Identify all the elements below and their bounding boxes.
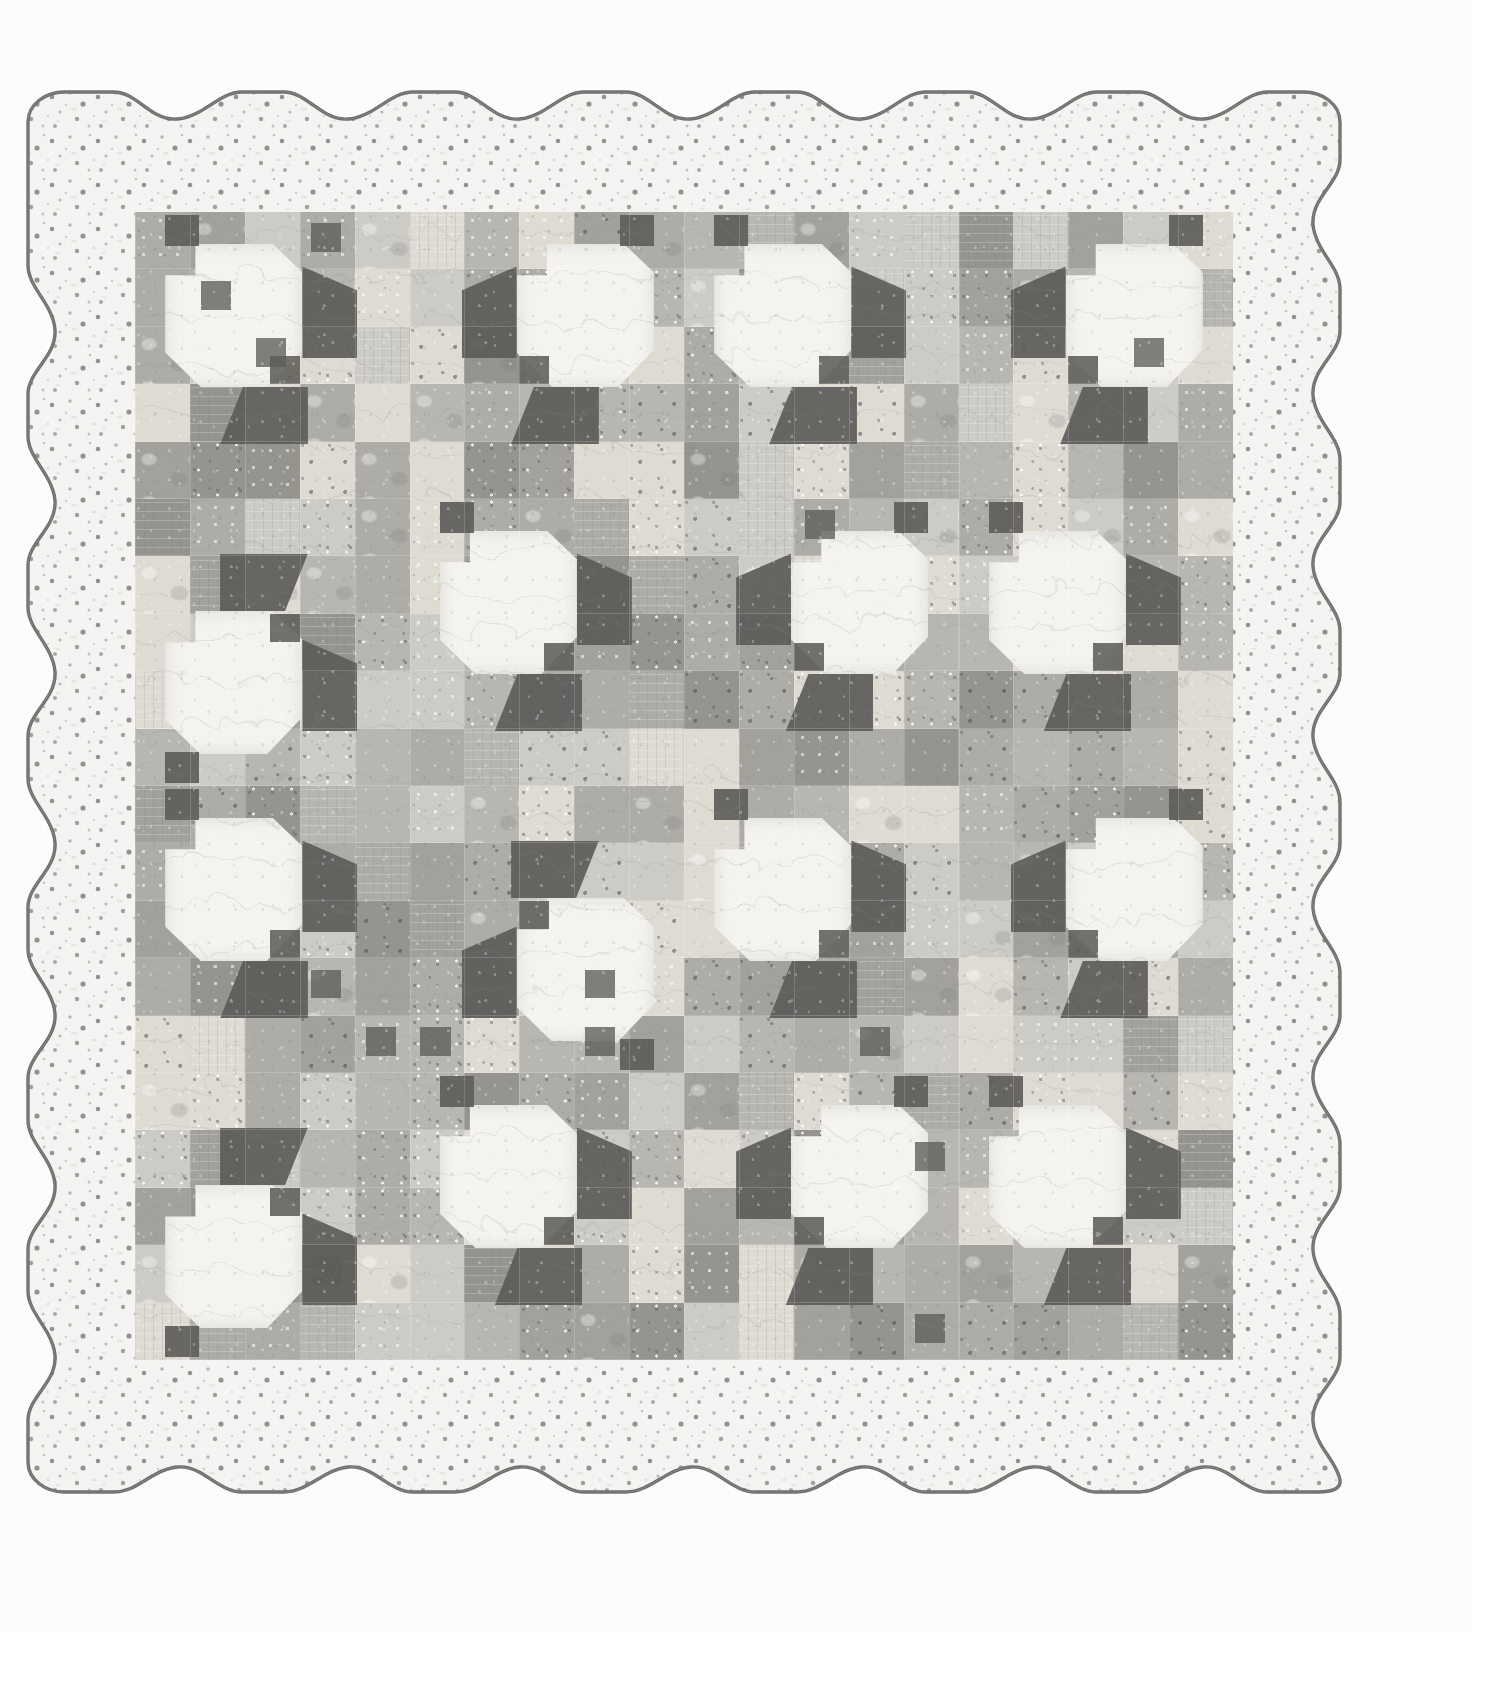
flower-notch-square [989,1076,1023,1108]
patch-cell [300,1016,356,1074]
flower-notch-square [620,1039,654,1071]
patch-cell [959,1303,1015,1360]
flower-notch-square [894,1076,928,1108]
patch-cell [1178,1188,1233,1246]
patch-cell [1068,442,1124,500]
patch-cell [410,671,466,729]
patch-cell [135,499,191,557]
flower-notch-square [165,215,199,247]
patch-cell [135,1073,191,1131]
patch-cell [1013,384,1069,442]
patch-cell [904,671,960,729]
patch-cell [629,843,685,901]
patch-cell [904,384,960,442]
patch-cell [1178,729,1233,787]
patch-cell [300,1130,356,1188]
patch-cell [684,1303,740,1360]
patch-cell [794,729,850,787]
patch-cell [629,1245,685,1303]
patch-cell [1123,1016,1179,1074]
patch-cell [959,212,1015,270]
patch-cell [684,442,740,500]
patch-cell [410,327,466,385]
patch-cell [355,958,411,1016]
flower-notch-square [440,1076,474,1108]
flower-notch-square [620,215,654,247]
patch-cell [574,1245,630,1303]
patch-cell [959,958,1015,1016]
patch-cell [355,786,411,844]
patch-cell [629,1303,685,1360]
patch-cell [684,1188,740,1246]
scatter-accent-square [420,1027,450,1056]
patch-cell [1178,671,1233,729]
quilt-object [0,0,1507,1692]
patch-cell [574,1073,630,1131]
patch-cell [959,786,1015,844]
patch-cell [849,384,905,442]
accent-square [819,356,849,385]
flower-notch-square [989,502,1023,534]
patch-cell [904,1245,960,1303]
patch-cell [245,442,301,500]
patch-cell [959,1016,1015,1074]
patch-cell [1178,1130,1233,1188]
scatter-accent-square [1134,338,1164,367]
patch-cell [355,499,411,557]
patch-cell [1013,442,1069,500]
accent-square [519,901,549,930]
patch-cell [464,212,520,270]
patch-cell [739,442,795,500]
patch-cell [629,1188,685,1246]
patch-cell [190,442,246,500]
patch-cell [1178,556,1233,614]
patch-cell [849,729,905,787]
accent-square [544,1217,574,1246]
patch-cell [300,1303,356,1360]
patch-cell [739,1073,795,1131]
patch-cell [410,1245,466,1303]
patch-cell [794,1016,850,1074]
scatter-accent-square [915,1314,945,1343]
scatter-accent-square [311,1257,341,1286]
patch-cell [959,1245,1015,1303]
patch-cell [959,729,1015,787]
patch-cell [135,1016,191,1074]
patch-cell [904,442,960,500]
patch-cell [355,212,411,270]
accent-square [519,356,549,385]
patch-cell [739,499,795,557]
patch-cell [355,384,411,442]
flower-notch-square [714,789,748,821]
patch-cell [684,384,740,442]
patch-cell [410,843,466,901]
patch-cell [574,671,630,729]
flower-notch-square [1169,789,1203,821]
patch-cell [300,442,356,500]
patch-cell [849,442,905,500]
patch-cell [629,1073,685,1131]
patch-cell [959,843,1015,901]
patch-cell [1013,786,1069,844]
patch-cell [1068,1303,1124,1360]
scatter-accent-square [915,1142,945,1171]
patch-cell [355,614,411,672]
patch-cell [739,1016,795,1074]
accent-square [794,1217,824,1246]
patch-cell [355,901,411,959]
patch-cell [1123,1073,1179,1131]
accent-square [1068,356,1098,385]
patch-cell [1178,1073,1233,1131]
patch-cell [794,1303,850,1360]
patch-cell [629,614,685,672]
patch-cell [1123,1245,1179,1303]
patch-cell [1123,729,1179,787]
patch-cell [684,1130,740,1188]
patch-cell [1178,442,1233,500]
patch-cell [904,901,960,959]
patch-cell [739,671,795,729]
patch-cell [959,384,1015,442]
scatter-accent-square [585,970,615,999]
patch-cell [464,1016,520,1074]
flower-notch-square [714,215,748,247]
